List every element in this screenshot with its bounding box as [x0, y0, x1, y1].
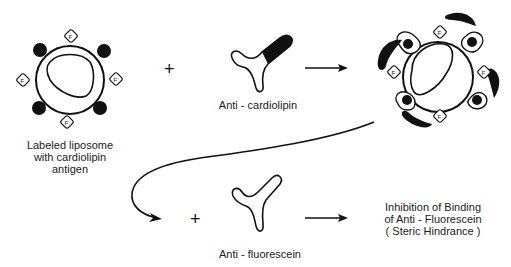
svg-text:F: F [69, 34, 73, 40]
svg-text:F: F [482, 70, 486, 76]
diagram-canvas: F F F F [0, 0, 511, 267]
svg-text:F: F [21, 78, 25, 84]
svg-text:F: F [438, 114, 442, 120]
arrow-right-icon [305, 214, 348, 222]
anti-fluorescein-label: Anti - fluorescein [210, 248, 310, 260]
liposome-icon [16, 29, 123, 129]
anti-cardiolipin-label: Anti - cardiolipin [208, 99, 308, 111]
arrow-right-icon [305, 64, 348, 72]
result-label: Inhibition of Binding of Anti - Fluoresc… [368, 201, 498, 237]
svg-text:F: F [114, 77, 118, 83]
plus-sign: + [190, 210, 201, 228]
antibody-icon [231, 36, 292, 92]
plus-sign: + [164, 60, 175, 78]
svg-text:F: F [65, 120, 69, 126]
svg-text:F: F [438, 30, 442, 36]
svg-text:F: F [392, 70, 396, 76]
antibody-icon [232, 176, 281, 232]
liposome-label: Labeled liposome with cardiolipin antige… [14, 139, 126, 175]
